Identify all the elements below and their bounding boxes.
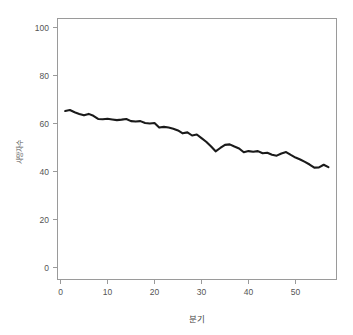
y-tick-label-40: 40 bbox=[40, 167, 50, 177]
x-axis-tick-labels: 0 10 20 30 40 50 bbox=[58, 287, 300, 297]
y-tick-label-0: 0 bbox=[44, 263, 49, 273]
x-tick-label-20: 20 bbox=[150, 287, 160, 297]
y-axis-ticks bbox=[53, 28, 58, 268]
y-tick-label-20: 20 bbox=[40, 215, 50, 225]
y-tick-label-80: 80 bbox=[40, 71, 50, 81]
y-axis-tick-labels: 100 80 60 40 20 0 bbox=[35, 23, 49, 273]
x-tick-label-0: 0 bbox=[58, 287, 63, 297]
x-tick-label-10: 10 bbox=[103, 287, 113, 297]
line-chart-plot: 100 80 60 40 20 0 0 10 20 30 40 50 분기 사망 bbox=[0, 0, 353, 335]
plot-panel-border bbox=[58, 19, 337, 280]
x-tick-label-30: 30 bbox=[197, 287, 207, 297]
x-axis-title: 분기 bbox=[189, 314, 205, 324]
x-axis-ticks bbox=[61, 280, 296, 285]
data-line-series-1 bbox=[65, 110, 328, 168]
x-tick-label-40: 40 bbox=[244, 287, 254, 297]
y-tick-label-60: 60 bbox=[40, 119, 50, 129]
y-tick-label-100: 100 bbox=[35, 23, 49, 33]
y-axis-title: 사망자수 bbox=[15, 139, 24, 164]
chart-container: 100 80 60 40 20 0 0 10 20 30 40 50 분기 사망 bbox=[0, 0, 353, 335]
x-tick-label-50: 50 bbox=[291, 287, 301, 297]
